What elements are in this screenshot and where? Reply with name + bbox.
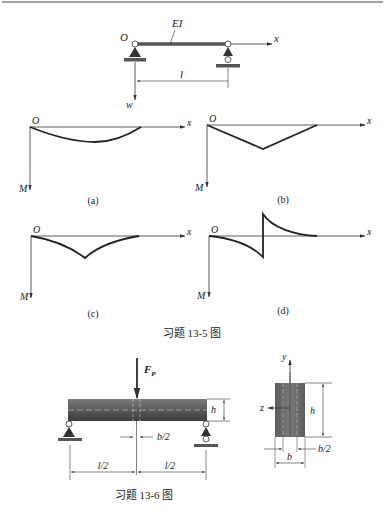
label-section-b: b — [287, 451, 292, 462]
right-support-icon — [201, 427, 211, 436]
svg-text:O: O — [33, 224, 40, 235]
tag-b: (b) — [277, 194, 289, 206]
loaded-beam-diagram: FP h b/2 l/2 l/2 — [58, 358, 230, 480]
svg-text:O: O — [32, 115, 39, 126]
svg-text:x: x — [366, 226, 372, 237]
svg-text:x: x — [186, 117, 192, 128]
moment-curve-c — [31, 236, 139, 258]
svg-text:M: M — [19, 291, 29, 302]
moment-curve-d — [209, 214, 317, 257]
label-h: h — [211, 404, 216, 415]
left-support-icon — [63, 427, 75, 437]
svg-text:O: O — [211, 224, 218, 235]
roller-wheel-icon — [225, 57, 231, 63]
svg-text:M: M — [194, 182, 204, 193]
label-w: w — [126, 99, 133, 110]
subplot-d: O x M (d) — [196, 214, 372, 317]
label-section-h: h — [310, 405, 315, 416]
label-force: FP — [143, 363, 156, 378]
label-z: z — [259, 402, 264, 413]
subplot-c: O x M (c) — [19, 224, 192, 320]
figure-canvas: EI O x w l O x M (a) O x M (b) O x M (c) — [0, 0, 385, 515]
left-ground-icon — [124, 58, 146, 62]
label-y: y — [281, 351, 287, 362]
beam-diagram: EI O x w l — [120, 17, 279, 110]
label-EI: EI — [171, 17, 184, 29]
left-pin-support-icon — [129, 47, 141, 57]
label-section-b-half: b/2 — [318, 443, 331, 454]
label-O: O — [120, 31, 128, 43]
EI-leader — [170, 30, 175, 44]
svg-text:M: M — [18, 183, 28, 194]
right-ground-icon — [216, 64, 240, 68]
svg-text:O: O — [209, 113, 216, 124]
right-roller-support-icon — [223, 47, 233, 56]
subplot-a: O x M (a) — [18, 115, 192, 207]
moment-curve-a — [30, 127, 141, 142]
caption-13-5: 习题 13-5 图 — [163, 327, 222, 339]
left-hinge-icon — [132, 41, 138, 47]
svg-text:x: x — [186, 226, 192, 237]
moment-curve-b — [207, 125, 317, 149]
caption-13-6: 习题 13-6 图 — [115, 489, 174, 501]
svg-text:M: M — [196, 290, 206, 301]
cross-section-diagram: y z h b/2 b — [259, 351, 332, 468]
label-l-half-left: l/2 — [98, 460, 109, 471]
label-x: x — [273, 32, 279, 44]
label-l: l — [180, 68, 183, 80]
tag-c: (c) — [87, 308, 98, 320]
tag-a: (a) — [87, 195, 98, 207]
label-b-half: b/2 — [157, 431, 170, 442]
tag-d: (d) — [277, 305, 289, 317]
svg-text:x: x — [366, 115, 372, 126]
subplot-b: O x M (b) — [194, 113, 372, 206]
right-hinge-icon — [225, 41, 231, 47]
label-l-half-right: l/2 — [165, 460, 176, 471]
